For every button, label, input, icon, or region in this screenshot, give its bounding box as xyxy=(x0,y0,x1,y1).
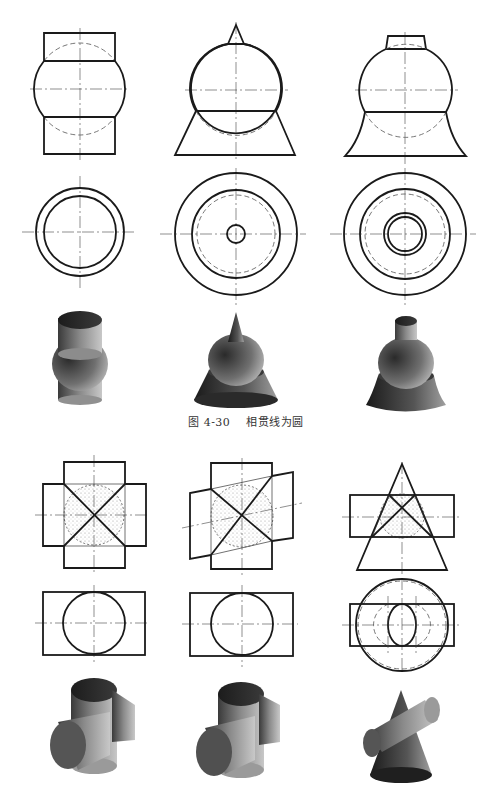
technical-drawing-canvas xyxy=(0,0,492,798)
shaded-3d-cone-cylinder xyxy=(363,690,440,783)
figure-number: 图 4-30 xyxy=(188,416,230,429)
front-view-cone-cylinder xyxy=(342,462,460,575)
top-view-cone-sphere-frustum xyxy=(160,168,306,305)
top-view-cylinder-sphere xyxy=(22,176,136,288)
top-view-cylinder-cross-perpendicular xyxy=(35,585,150,665)
front-view-cone-sphere-frustum xyxy=(175,22,295,162)
top-view-cylinder-cross-oblique xyxy=(182,585,298,667)
front-view-cylinder-cross-perpendicular xyxy=(35,455,150,575)
front-view-cylinder-sphere xyxy=(30,28,130,160)
shaded-3d-frustum-sphere-curved-base xyxy=(366,316,446,412)
front-view-cylinder-cross-oblique xyxy=(182,458,302,577)
shaded-3d-cylinder-cross-oblique xyxy=(196,682,280,778)
top-view-frustum-sphere-curved-base xyxy=(330,168,476,306)
figure-title: 相贯线为圆 xyxy=(246,416,304,429)
figure-caption: 图 4-30 相贯线为圆 xyxy=(0,413,492,429)
front-view-frustum-sphere-curved-base xyxy=(345,32,466,165)
shaded-3d-cone-sphere-frustum xyxy=(194,312,278,408)
shaded-3d-cylinder-sphere xyxy=(52,311,108,405)
shaded-3d-cylinder-cross-perpendicular xyxy=(50,678,135,774)
top-view-cone-cylinder xyxy=(342,578,460,672)
